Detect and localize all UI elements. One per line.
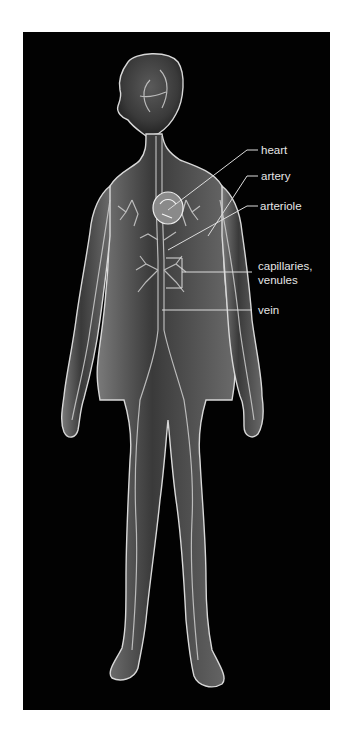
label-vein: vein bbox=[258, 304, 279, 317]
label-capillaries: capillaries, bbox=[258, 260, 312, 273]
body-illustration bbox=[0, 0, 342, 732]
label-artery: artery bbox=[261, 170, 290, 183]
label-venules: venules bbox=[258, 274, 298, 287]
label-heart: heart bbox=[261, 144, 287, 157]
label-arteriole: arteriole bbox=[260, 200, 302, 213]
heart-shape bbox=[153, 192, 183, 224]
